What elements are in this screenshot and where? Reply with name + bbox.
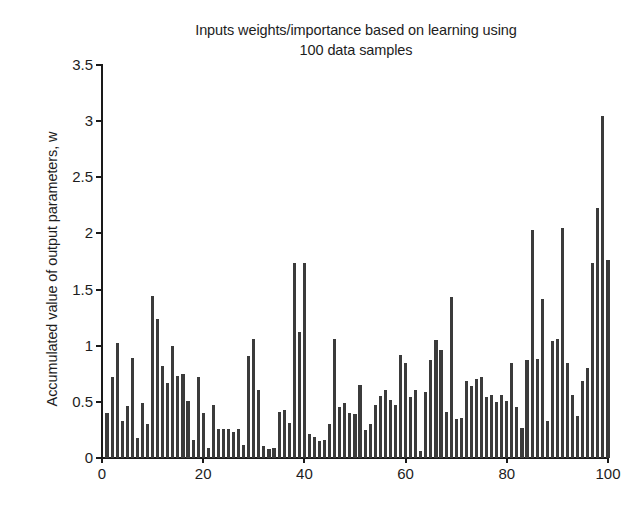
- bar: [601, 116, 604, 458]
- y-tick-label: 2.5: [72, 168, 93, 185]
- bar: [298, 332, 301, 458]
- bar: [338, 407, 341, 458]
- bar: [384, 390, 387, 458]
- bar: [541, 299, 544, 458]
- bar: [278, 412, 281, 458]
- bar: [141, 403, 144, 458]
- bar: [485, 397, 488, 458]
- x-tick-label: 60: [397, 465, 414, 482]
- bar: [197, 377, 200, 458]
- y-tick-label: 3.5: [72, 56, 93, 73]
- bar: [262, 446, 265, 458]
- x-tick-label: 40: [296, 465, 313, 482]
- x-tick-label: 0: [98, 465, 106, 482]
- bar: [328, 424, 331, 458]
- bar: [470, 386, 473, 458]
- x-tick-label: 80: [498, 465, 515, 482]
- bar: [121, 421, 124, 458]
- bar: [308, 434, 311, 458]
- bar: [343, 403, 346, 458]
- bar: [358, 385, 361, 458]
- bar: [434, 340, 437, 458]
- bar: [379, 396, 382, 458]
- bar: [374, 405, 377, 458]
- bar: [399, 355, 402, 458]
- bar: [151, 296, 154, 458]
- bar: [596, 208, 599, 458]
- bar: [161, 366, 164, 458]
- bar: [247, 356, 250, 458]
- bar: [531, 230, 534, 458]
- y-tick-label: 0: [85, 449, 93, 466]
- bar: [389, 400, 392, 458]
- bar: [116, 343, 119, 458]
- bar: [404, 363, 407, 458]
- bar: [591, 263, 594, 458]
- bar: [566, 363, 569, 458]
- bar: [414, 390, 417, 458]
- bar: [576, 416, 579, 458]
- bar: [171, 346, 174, 458]
- bar: [181, 374, 184, 458]
- bar: [551, 341, 554, 458]
- bar: [525, 360, 528, 458]
- bar: [257, 390, 260, 458]
- bar: [460, 418, 463, 458]
- bar: [303, 263, 306, 458]
- bar: [515, 407, 518, 458]
- bar: [369, 424, 372, 458]
- bar: [364, 430, 367, 458]
- bar: [323, 440, 326, 458]
- bar: [283, 410, 286, 458]
- bar: [252, 339, 255, 458]
- bar: [186, 401, 189, 458]
- bar: [480, 377, 483, 458]
- bar: [237, 429, 240, 458]
- bar: [419, 451, 422, 458]
- bar: [131, 358, 134, 458]
- bar: [465, 381, 468, 458]
- bar: [227, 429, 230, 458]
- y-tick-label: 1.5: [72, 281, 93, 298]
- bar: [293, 263, 296, 458]
- y-axis-label: Accumulated value of output parameters, …: [44, 59, 60, 479]
- bar: [222, 429, 225, 458]
- bar: [445, 412, 448, 458]
- bar: [450, 297, 453, 458]
- bar: [105, 413, 108, 458]
- bar: [353, 414, 356, 458]
- bar-series: [102, 65, 608, 458]
- bar: [242, 445, 245, 458]
- y-tick-label: 3: [85, 112, 93, 129]
- bar: [111, 377, 114, 458]
- bar: [288, 423, 291, 458]
- bar: [166, 383, 169, 458]
- y-tick-label: 0.5: [72, 393, 93, 410]
- bar: [561, 228, 564, 458]
- bar: [394, 405, 397, 458]
- chart-figure: Inputs weights/importance based on learn…: [0, 0, 641, 525]
- bar: [333, 339, 336, 458]
- bar: [606, 260, 609, 458]
- bar: [126, 406, 129, 458]
- bar: [156, 319, 159, 458]
- bar: [490, 395, 493, 458]
- bar: [455, 419, 458, 458]
- bar: [267, 449, 270, 458]
- bar: [212, 405, 215, 458]
- bar: [571, 395, 574, 458]
- bar: [207, 448, 210, 458]
- bar: [176, 376, 179, 458]
- x-tick-label: 100: [595, 465, 620, 482]
- bar: [146, 424, 149, 458]
- bar: [505, 401, 508, 458]
- bar: [586, 368, 589, 458]
- bar: [520, 428, 523, 458]
- bar: [510, 363, 513, 458]
- y-tick-label: 2: [85, 224, 93, 241]
- bar: [318, 441, 321, 458]
- bar: [136, 438, 139, 458]
- chart-title: Inputs weights/importance based on learn…: [102, 20, 610, 60]
- bar: [500, 395, 503, 458]
- bar: [409, 397, 412, 458]
